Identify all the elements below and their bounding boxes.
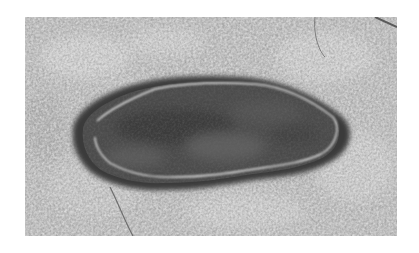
rock-photograph: [25, 17, 397, 236]
rock-photo-svg: [25, 17, 397, 236]
